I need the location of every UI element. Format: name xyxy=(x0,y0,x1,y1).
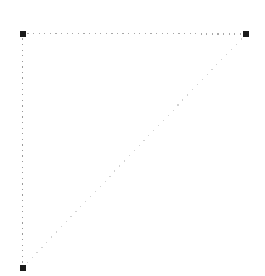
dot xyxy=(22,211,23,212)
dot xyxy=(177,104,178,105)
dot xyxy=(22,178,23,179)
dot xyxy=(117,33,118,34)
dot xyxy=(134,33,135,34)
dot xyxy=(72,33,73,34)
dot xyxy=(22,161,23,162)
dot xyxy=(139,33,140,34)
dot xyxy=(83,33,84,34)
plot-background xyxy=(0,0,265,276)
dot xyxy=(217,33,218,34)
dot xyxy=(22,167,23,168)
dot xyxy=(207,74,208,75)
dot xyxy=(212,33,213,34)
dot xyxy=(22,183,23,184)
dot xyxy=(106,33,107,34)
dot xyxy=(70,216,71,217)
dot xyxy=(22,50,23,51)
dot xyxy=(223,33,224,34)
dot xyxy=(55,33,56,34)
dot xyxy=(22,77,23,78)
dot xyxy=(56,231,57,232)
dot xyxy=(22,139,23,140)
dot xyxy=(197,84,198,85)
figure-canvas xyxy=(0,0,265,276)
dot xyxy=(78,33,79,34)
dot xyxy=(66,221,67,222)
dot xyxy=(122,33,123,34)
dot xyxy=(22,144,23,145)
plot-area xyxy=(0,0,265,276)
dot xyxy=(22,217,23,218)
dot xyxy=(22,100,23,101)
dot xyxy=(128,33,129,34)
dot xyxy=(201,33,202,34)
dot xyxy=(22,133,23,134)
dot xyxy=(41,247,42,248)
dot xyxy=(22,122,23,123)
top-right-vertex-marker xyxy=(243,31,249,37)
dot xyxy=(90,196,91,197)
dot xyxy=(22,239,23,240)
dot xyxy=(105,181,106,182)
dot xyxy=(173,33,174,34)
dot xyxy=(216,64,217,65)
dot xyxy=(22,111,23,112)
dot xyxy=(190,33,191,34)
dot xyxy=(100,186,101,187)
dot xyxy=(27,262,28,263)
dot xyxy=(109,176,110,177)
dot xyxy=(22,94,23,95)
dot xyxy=(167,33,168,34)
dot xyxy=(178,33,179,34)
dot xyxy=(182,99,183,100)
dot xyxy=(153,130,154,131)
dot xyxy=(145,33,146,34)
dot xyxy=(22,150,23,151)
dot xyxy=(22,222,23,223)
dot xyxy=(184,33,185,34)
dot xyxy=(22,44,23,45)
dot xyxy=(22,66,23,67)
dot xyxy=(95,191,96,192)
dot xyxy=(129,155,130,156)
dot xyxy=(156,33,157,34)
top-left-vertex-marker xyxy=(20,31,26,37)
dot xyxy=(22,206,23,207)
dot xyxy=(211,69,212,70)
dot xyxy=(51,236,52,237)
dot xyxy=(22,256,23,257)
dot xyxy=(114,170,115,171)
dot xyxy=(75,211,76,212)
dot xyxy=(22,72,23,73)
dot xyxy=(61,226,62,227)
dot xyxy=(22,200,23,201)
dot xyxy=(67,33,68,34)
dot xyxy=(173,110,174,111)
dot xyxy=(231,49,232,50)
dot xyxy=(158,125,159,126)
dot xyxy=(241,38,242,39)
dot xyxy=(22,228,23,229)
dot xyxy=(206,33,207,34)
dot xyxy=(22,89,23,90)
dot xyxy=(22,105,23,106)
dot xyxy=(221,59,222,60)
dot xyxy=(229,33,230,34)
dot xyxy=(95,33,96,34)
dot xyxy=(22,61,23,62)
dot xyxy=(22,83,23,84)
dot xyxy=(61,33,62,34)
dot xyxy=(202,79,203,80)
dot xyxy=(22,194,23,195)
dot xyxy=(148,135,149,136)
dot xyxy=(192,89,193,90)
dot xyxy=(32,257,33,258)
dot xyxy=(119,165,120,166)
dot xyxy=(162,33,163,34)
dot xyxy=(195,33,196,34)
dot xyxy=(168,115,169,116)
dot xyxy=(89,33,90,34)
dot xyxy=(22,261,23,262)
dot xyxy=(22,233,23,234)
dot xyxy=(234,33,235,34)
